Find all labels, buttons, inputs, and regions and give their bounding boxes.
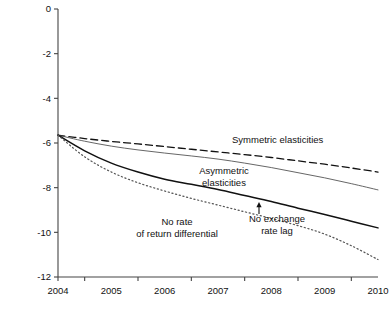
chart-series-group — [58, 135, 378, 259]
y-tick-label: -8 — [43, 182, 51, 193]
y-tick-label: -10 — [37, 227, 51, 238]
x-tick-label: 2007 — [207, 285, 228, 296]
no-exchange-rate-lag-label-line: rate lag — [261, 225, 293, 236]
chart-container: 0-2-4-6-8-10-12 200420052006200720082009… — [0, 0, 392, 310]
asymmetric-elasticities-label: Asymmetricelasticities — [199, 165, 249, 188]
y-axis-tick-labels: 0-2-4-6-8-10-12 — [37, 3, 51, 282]
no-rate-of-return-differential-label: No rateof return differential — [136, 216, 218, 239]
y-tick-label: -12 — [37, 271, 51, 282]
y-tick-label: -6 — [43, 137, 51, 148]
symmetric-elasticities-label: Symmetric elasticities — [232, 134, 324, 145]
no-rate-of-return-differential-label-line: No rate — [161, 216, 192, 227]
x-tick-label: 2009 — [314, 285, 335, 296]
asymmetric-elasticities-label-line: Asymmetric — [199, 165, 249, 176]
y-tick-label: -4 — [43, 93, 51, 104]
x-tick-label: 2005 — [101, 285, 122, 296]
no-exchange-rate-lag-label-line: No exchange — [249, 213, 305, 224]
y-tick-label: 0 — [46, 3, 51, 14]
y-axis-ticks — [54, 9, 58, 277]
x-tick-label: 2006 — [154, 285, 175, 296]
y-tick-label: -2 — [43, 48, 51, 59]
no-rate-of-return-differential-label-line: of return differential — [136, 228, 218, 239]
chart-annotations: Symmetric elasticitiesAsymmetricelastici… — [136, 134, 323, 239]
asymmetric-elasticities-label-line: elasticities — [202, 177, 246, 188]
line-chart: 0-2-4-6-8-10-12 200420052006200720082009… — [0, 0, 392, 310]
arrow-head — [256, 202, 261, 207]
x-tick-label: 2010 — [367, 285, 388, 296]
series-line-no-rate-of-return-differential — [58, 135, 378, 259]
x-tick-label: 2004 — [47, 285, 68, 296]
no-exchange-rate-lag-label: No exchangerate lag — [249, 213, 305, 236]
x-axis-tick-labels: 2004200520062007200820092010 — [47, 285, 388, 296]
x-tick-label: 2008 — [261, 285, 282, 296]
x-axis-ticks — [58, 277, 351, 281]
symmetric-elasticities-label-line: Symmetric elasticities — [232, 134, 324, 145]
